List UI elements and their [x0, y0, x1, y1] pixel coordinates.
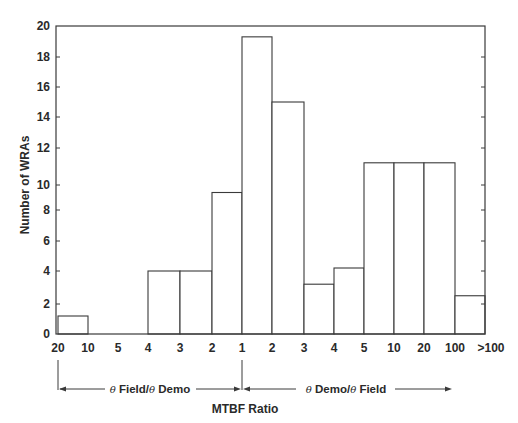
bars-group — [58, 37, 485, 334]
y-tick-label: 18 — [37, 50, 51, 64]
ratio-annotations: θ Field/θ Demo θ Demo/θ Field — [58, 360, 452, 395]
x-tick-label: 10 — [387, 341, 401, 355]
histogram-bar — [304, 284, 334, 334]
histogram-bar — [394, 163, 424, 334]
histogram-bar — [424, 163, 455, 334]
arrow-left-icon — [243, 387, 250, 392]
y-tick-label: 6 — [43, 234, 50, 248]
x-tick-label: 3 — [177, 341, 184, 355]
x-tick-label: 100 — [445, 341, 465, 355]
histogram-bar — [148, 271, 180, 334]
x-tick-label: 10 — [81, 341, 95, 355]
y-tick-label: 12 — [37, 141, 51, 155]
arrow-right-icon — [234, 387, 241, 392]
histogram-bar — [180, 271, 212, 334]
y-tick-label: 14 — [37, 110, 51, 124]
y-tick-label: 4 — [43, 264, 50, 278]
y-tick-label: 2 — [43, 297, 50, 311]
histogram-bar — [212, 193, 242, 335]
y-tick-label: 0 — [43, 327, 50, 341]
x-axis-title: MTBF Ratio — [212, 402, 279, 416]
x-tick-label: >100 — [477, 341, 504, 355]
histogram-bar — [364, 163, 394, 334]
demo-over-field-label: θ Demo/θ Field — [306, 383, 386, 395]
histogram-chart: 02468101214161820 20105432123451020100>1… — [0, 0, 518, 423]
x-tick-label: 2 — [209, 341, 216, 355]
histogram-bar — [58, 316, 88, 334]
x-tick-label: 5 — [115, 341, 122, 355]
x-tick-label: 20 — [51, 341, 65, 355]
y-axis-title: Number of WRAs — [18, 135, 32, 234]
histogram-bar — [334, 268, 364, 334]
histogram-bar — [455, 296, 485, 334]
arrow-left-icon — [59, 387, 66, 392]
y-tick-label: 16 — [37, 80, 51, 94]
arrow-right-icon — [445, 387, 452, 392]
x-tick-label: 4 — [331, 341, 338, 355]
x-tick-label: 3 — [301, 341, 308, 355]
x-axis-tick-labels: 20105432123451020100>100 — [51, 341, 505, 355]
y-tick-label: 10 — [37, 178, 51, 192]
y-tick-label: 8 — [43, 203, 50, 217]
x-tick-label: 20 — [417, 341, 431, 355]
histogram-bar — [242, 37, 272, 334]
x-tick-label: 2 — [269, 341, 276, 355]
histogram-bar — [272, 102, 304, 334]
field-over-demo-label: θ Field/θ Demo — [110, 383, 190, 395]
y-tick-label: 20 — [37, 19, 51, 33]
x-tick-label: 5 — [361, 341, 368, 355]
x-tick-label: 1 — [239, 341, 246, 355]
x-tick-label: 4 — [145, 341, 152, 355]
